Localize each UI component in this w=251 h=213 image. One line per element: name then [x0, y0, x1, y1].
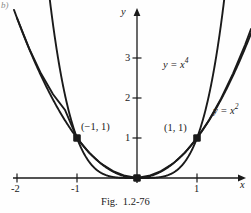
y-tick-label-1: 1 [125, 133, 130, 144]
y-axis-label: y [121, 7, 126, 18]
point-label-1-1: (1, 1) [164, 123, 187, 134]
figure-container: b) y x [0, 0, 251, 213]
caption-prefix: Fig. [101, 196, 118, 207]
curve-y-equals-x-squared [14, 10, 251, 178]
y-axis-arrowhead [134, 8, 141, 16]
point-label-neg1-1: (−1, 1) [81, 122, 110, 133]
y-tick-label-2: 2 [125, 93, 130, 104]
x-axis-label: x [240, 180, 245, 191]
figure-caption: Fig.1.2-76 [0, 196, 251, 207]
curve-label-quartic-base: y = x [163, 59, 185, 70]
y-tick-label-3: 3 [125, 53, 130, 64]
point-marker-1-1 [193, 134, 201, 142]
caption-number: 1.2-76 [123, 196, 150, 207]
x-tick-label-neg1: -1 [71, 184, 80, 195]
curve-label-quadratic-base: y = x [213, 105, 235, 116]
curve-label-quadratic: y = x2 [213, 103, 238, 116]
point-marker-neg1-1 [73, 134, 81, 142]
curve-label-quartic-exponent: 4 [185, 56, 189, 65]
x-tick-label-pos1: 1 [194, 184, 199, 195]
x-tick-label-neg2: -2 [11, 184, 20, 195]
curve-label-quadratic-exponent: 2 [235, 102, 239, 111]
y-axis [133, 8, 142, 183]
point-marker-origin [133, 174, 141, 182]
curve-label-quartic: y = x4 [163, 57, 188, 70]
